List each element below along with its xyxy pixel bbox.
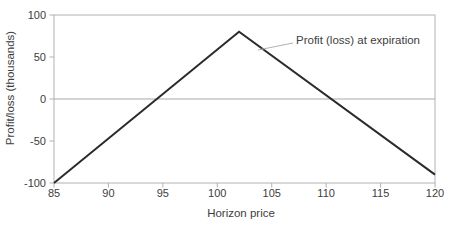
- x-tick-label: 95: [157, 187, 169, 199]
- x-tick-label: 105: [263, 187, 281, 199]
- x-tick-label: 110: [317, 187, 335, 199]
- payoff-line: [54, 32, 435, 183]
- x-tick-label: 90: [102, 187, 114, 199]
- x-tick-label: 120: [426, 187, 444, 199]
- y-tick-label: -50: [30, 135, 46, 147]
- x-tick-label: 85: [48, 187, 60, 199]
- y-tick-label: 0: [40, 93, 46, 105]
- y-tick-label: 100: [28, 9, 46, 21]
- x-tick-label: 115: [372, 187, 390, 199]
- x-axis-title: Horizon price: [207, 207, 275, 219]
- x-tick-label: 100: [208, 187, 226, 199]
- y-tick-label: 50: [34, 51, 46, 63]
- y-axis-title: Profit/loss (thousands): [4, 31, 16, 145]
- series-annotation-label: Profit (loss) at expiration: [296, 34, 420, 46]
- y-tick-label: -100: [24, 177, 46, 189]
- annotation-leader-line: [258, 43, 293, 50]
- payoff-diagram-figure: 859095100105110115120100500-50-100 Profi…: [0, 0, 453, 227]
